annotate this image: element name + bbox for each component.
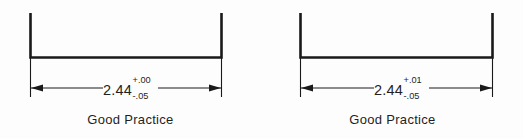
figure-caption: Good Practice <box>0 112 261 127</box>
tolerance-upper: +.00 <box>133 76 151 86</box>
tolerance-stack: +.00 -.05 <box>133 81 151 101</box>
arrowhead-left-icon <box>31 85 43 92</box>
tolerance-upper: +.01 <box>404 76 422 86</box>
figure-right: 2.44 +.01 -.05 Good Practice <box>262 0 523 138</box>
arrowhead-right-icon <box>480 85 492 92</box>
arrowhead-right-icon <box>209 85 221 92</box>
arrowhead-left-icon <box>301 85 313 92</box>
drawing-sheet: 2.44 +.00 -.05 Good Practice 2.44 +.01 <box>0 0 523 138</box>
dimension-value: 2.44 <box>103 82 132 98</box>
dimension-text: 2.44 +.01 -.05 <box>374 81 422 101</box>
figure-caption: Good Practice <box>262 112 523 127</box>
tolerance-lower: -.05 <box>133 92 151 102</box>
tolerance-lower: -.05 <box>404 92 422 102</box>
dimension-text: 2.44 +.00 -.05 <box>103 81 151 101</box>
u-channel-profile <box>301 13 493 58</box>
tolerance-stack: +.01 -.05 <box>404 81 422 101</box>
u-channel-profile <box>31 13 222 58</box>
dimension-value: 2.44 <box>374 82 403 98</box>
figure-left: 2.44 +.00 -.05 Good Practice <box>0 0 261 138</box>
